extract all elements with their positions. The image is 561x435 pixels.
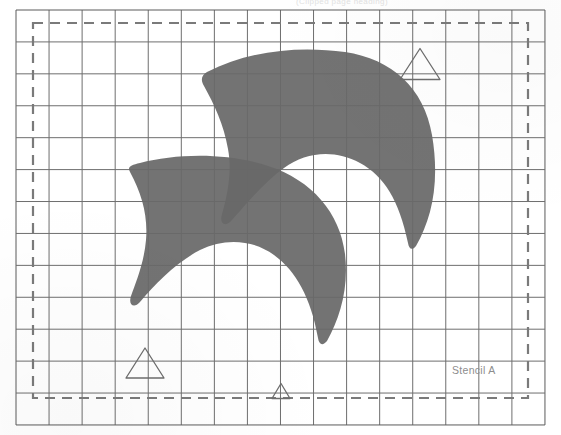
stencil-drawing-page: (Clipped page heading) Stencil A (0, 0, 561, 435)
triangle-marker-top-right (400, 49, 440, 80)
triangle-marker-bottom-center (272, 384, 290, 399)
stencil-shapes (129, 49, 435, 344)
stencil-name-label: Stencil A (452, 364, 496, 376)
triangle-marker-bottom-left (126, 348, 164, 378)
